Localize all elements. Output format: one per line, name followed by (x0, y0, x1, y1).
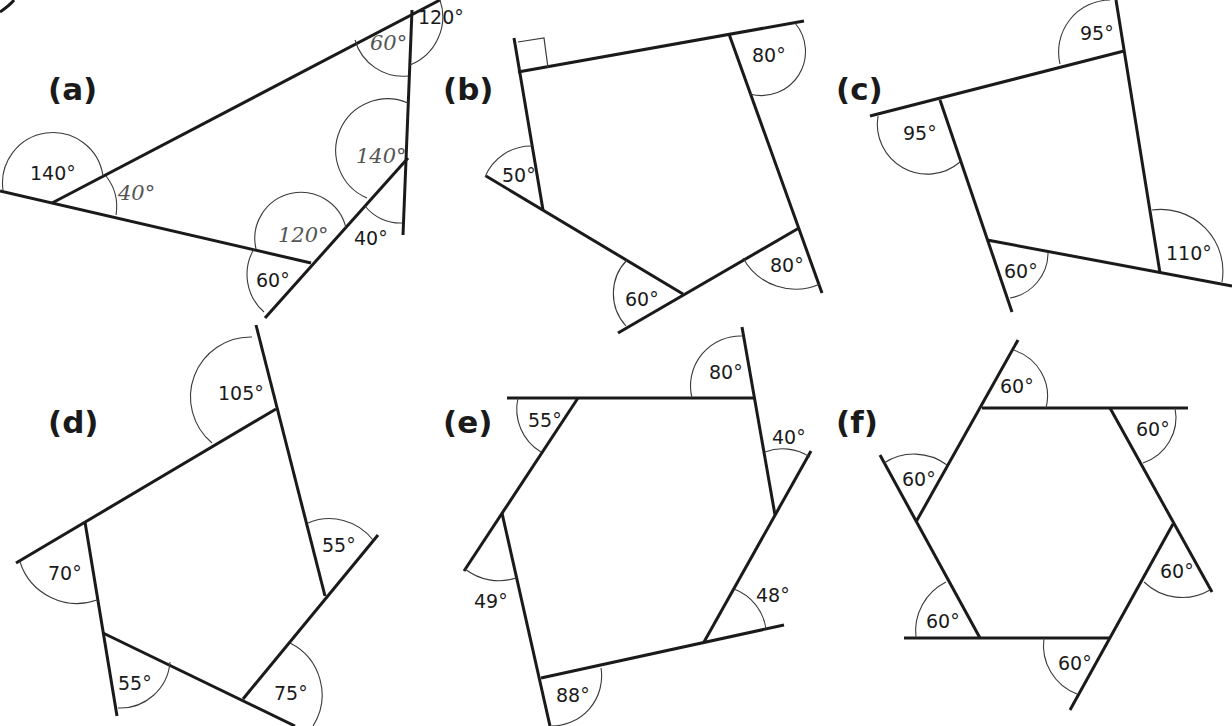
panel-c: (c) 95° 95° 60° 110° (836, 0, 1232, 312)
panel-b: (b) 80° 50° 60° 80° (443, 21, 822, 333)
angle-label: 60° (926, 610, 960, 632)
panel-label-f: (f) (836, 404, 878, 440)
angle-label: 60° (1136, 418, 1170, 440)
angle-label: 70° (48, 562, 82, 584)
handwritten-angle: 40° (117, 181, 155, 205)
handwritten-angle: 140° (356, 144, 407, 168)
angle-label: 50° (502, 164, 536, 186)
angle-label: 80° (709, 361, 743, 383)
angle-label: 95° (1080, 22, 1114, 44)
angle-label: 80° (752, 44, 786, 66)
panel-f: (f) 60° 60° 60° 60° 60° 60° (836, 340, 1212, 710)
panel-label-b: (b) (443, 71, 494, 107)
angle-label: 80° (770, 254, 804, 276)
handwritten-angle: 60° (370, 31, 407, 55)
angle-label: 88° (556, 684, 590, 706)
exterior-angles-diagram: (a) 140° 40° 60° 120° 140° 40° 120° 60° … (0, 0, 1232, 726)
angle-label: 60° (1160, 560, 1194, 582)
angle-label: 55° (322, 534, 356, 556)
angle-label: 60° (1058, 652, 1092, 674)
panel-a: (a) 140° 40° 60° 120° 140° 40° 120° 60° (0, 0, 464, 318)
angle-label: 60° (256, 269, 290, 291)
angle-label: 60° (1000, 375, 1034, 397)
panel-label-a: (a) (48, 71, 97, 107)
angle-label: 95° (903, 122, 937, 144)
angle-label: 55° (528, 409, 562, 431)
panel-label-e: (e) (443, 404, 492, 440)
panel-label-d: (d) (48, 404, 99, 440)
angle-label: 140° (30, 162, 76, 184)
angle-label: 110° (1166, 242, 1212, 264)
handwritten-angle: 120° (278, 223, 329, 247)
angle-label: 60° (902, 468, 936, 490)
partial-edge-decoration (0, 0, 14, 12)
angle-label: 120° (418, 6, 464, 28)
angle-label: 75° (274, 682, 308, 704)
angle-label: 40° (772, 426, 806, 448)
panel-d: (d) 105° 55° 70° 55° 75° (16, 325, 378, 726)
angle-label: 105° (218, 382, 264, 404)
angle-label: 49° (474, 590, 508, 612)
angle-label: 60° (1004, 260, 1038, 282)
panel-label-c: (c) (836, 71, 883, 107)
angle-label: 55° (118, 672, 152, 694)
angle-label: 40° (354, 227, 388, 249)
angle-label: 60° (625, 288, 659, 310)
angle-label: 48° (756, 584, 790, 606)
panel-e: (e) 55° 80° 40° 49° 48° 88° (443, 327, 811, 726)
